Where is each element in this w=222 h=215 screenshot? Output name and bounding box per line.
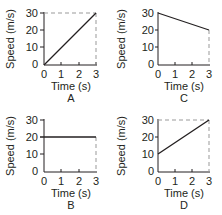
panel-label: B [67,199,74,211]
panel-label: D [180,199,188,211]
svg-text:30: 30 [142,7,154,19]
svg-text:0: 0 [155,175,161,187]
svg-text:3: 3 [93,68,99,80]
svg-text:0: 0 [155,68,161,80]
y-axis-label: Speed (m/s) [4,116,16,176]
data-line [158,120,209,154]
x-axis-label: Time (s) [51,187,91,199]
svg-text:30: 30 [26,114,38,126]
svg-text:1: 1 [172,175,178,187]
svg-text:0: 0 [41,175,47,187]
x-axis-label: Time (s) [164,187,204,199]
svg-text:30: 30 [26,7,38,19]
svg-text:0: 0 [41,68,47,80]
chart-d-svg: Speed (m/s) 30 20 10 0 0 1 2 3 Time (s) … [111,107,222,215]
panel-label: A [67,92,75,104]
data-line [44,13,96,65]
chart-a-svg: Speed (m/s) 30 20 10 0 0 1 2 3 Time (s) … [0,0,111,107]
svg-text:2: 2 [189,175,195,187]
chart-panel-d: Speed (m/s) 30 20 10 0 0 1 2 3 Time (s) … [111,107,222,214]
data-line [158,13,209,30]
y-axis-label: Speed (m/s) [4,9,16,69]
svg-text:1: 1 [58,175,64,187]
svg-text:2: 2 [189,68,195,80]
svg-text:20: 20 [142,131,154,143]
chart-panel-b: Speed (m/s) 30 20 10 0 0 1 2 3 Time (s) … [0,107,111,214]
chart-b-svg: Speed (m/s) 30 20 10 0 0 1 2 3 Time (s) … [0,107,111,215]
svg-text:10: 10 [26,41,38,53]
svg-text:0: 0 [148,58,154,70]
panel-label: C [180,92,188,104]
svg-text:1: 1 [58,68,64,80]
svg-text:2: 2 [76,68,82,80]
svg-text:10: 10 [26,148,38,160]
svg-text:1: 1 [172,68,178,80]
svg-text:20: 20 [26,24,38,36]
y-axis-label: Speed (m/s) [115,9,127,69]
svg-text:3: 3 [206,68,212,80]
svg-text:10: 10 [142,148,154,160]
svg-text:0: 0 [32,58,38,70]
chart-c-svg: Speed (m/s) 30 20 10 0 0 1 2 3 Time (s) … [111,0,222,107]
chart-panel-c: Speed (m/s) 30 20 10 0 0 1 2 3 Time (s) … [111,0,222,107]
svg-text:0: 0 [148,165,154,177]
svg-text:0: 0 [32,165,38,177]
svg-text:30: 30 [142,114,154,126]
svg-text:3: 3 [206,175,212,187]
chart-panel-a: Speed (m/s) 30 20 10 0 0 1 2 3 Time (s) … [0,0,111,107]
y-axis-label: Speed (m/s) [115,116,127,176]
x-axis-label: Time (s) [164,80,204,92]
svg-text:20: 20 [26,131,38,143]
svg-text:2: 2 [76,175,82,187]
svg-text:3: 3 [93,175,99,187]
svg-text:10: 10 [142,41,154,53]
x-axis-label: Time (s) [51,80,91,92]
svg-text:20: 20 [142,24,154,36]
